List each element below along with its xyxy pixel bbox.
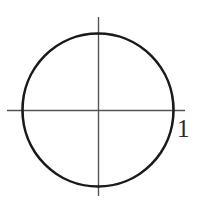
unit-circle-diagram	[0, 0, 201, 204]
radius-label: 1	[177, 116, 190, 141]
figure-background	[0, 0, 201, 204]
figure-canvas: 1	[0, 0, 201, 204]
